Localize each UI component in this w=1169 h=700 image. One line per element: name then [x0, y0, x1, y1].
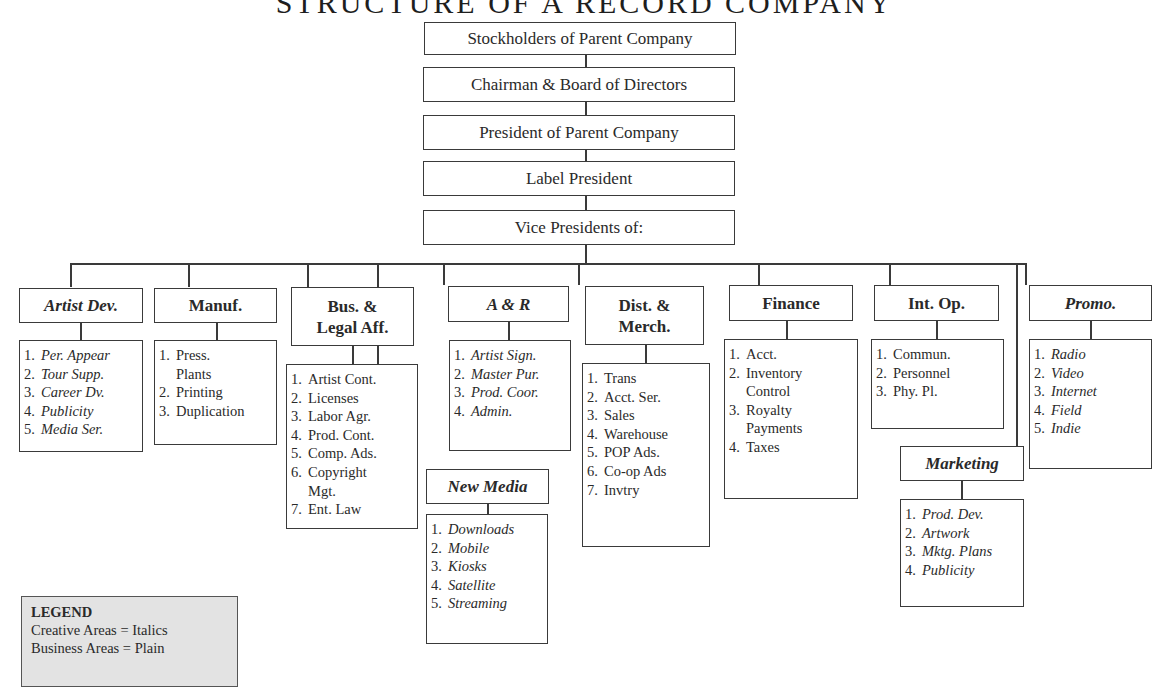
- list-item: 4. Warehouse: [587, 425, 709, 444]
- list-item: 1. Radio: [1034, 345, 1151, 364]
- dept-finance: Finance: [729, 285, 853, 321]
- connector: [80, 323, 82, 340]
- list-item: 1. Trans: [587, 369, 709, 388]
- list-item: 4. Admin.: [454, 402, 570, 421]
- list-item: 1. Press.: [159, 346, 276, 365]
- list-item: 6. Co-op Ads: [587, 462, 709, 481]
- list-item: 5. Streaming: [431, 594, 547, 613]
- list-item: 2. Master Pur.: [454, 365, 570, 384]
- dept-name: Artist Dev.: [44, 295, 118, 316]
- connector: [645, 345, 647, 363]
- connector: [508, 322, 510, 340]
- list-item: Plants: [159, 365, 276, 384]
- stockholders-label: Stockholders of Parent Company: [467, 29, 692, 49]
- dept-int-op: Int. Op.: [874, 285, 999, 321]
- connector: [585, 196, 587, 210]
- list-item: 2. Printing: [159, 383, 276, 402]
- list-item: 4. Publicity: [24, 402, 142, 421]
- dept-name: A & R: [487, 294, 530, 315]
- connector: [307, 263, 309, 287]
- list-item: 1. Acct.: [729, 345, 857, 364]
- department-bus-line: [70, 263, 1026, 265]
- list-manuf: 1. Press.Plants2. Printing3. Duplication: [154, 340, 277, 445]
- connector: [936, 321, 938, 339]
- parent-president-box: President of Parent Company: [423, 115, 735, 150]
- list-item: 7. Ent. Law: [291, 500, 417, 519]
- dept-artist-dev: Artist Dev.: [19, 288, 143, 323]
- connector: [889, 263, 891, 285]
- list-item: 2. Artwork: [905, 524, 1023, 543]
- dept-name: Finance: [762, 293, 820, 314]
- dept-name: New Media: [448, 476, 528, 497]
- vice-presidents-box: Vice Presidents of:: [423, 210, 735, 245]
- connector: [578, 263, 580, 285]
- parent-president-label: President of Parent Company: [479, 123, 679, 143]
- dept-name: Bus. &Legal Aff.: [317, 296, 389, 338]
- dept-manuf: Manuf.: [154, 288, 277, 323]
- dept-bus-legal: Bus. &Legal Aff.: [291, 287, 414, 346]
- dept-name: Manuf.: [189, 295, 242, 316]
- dept-marketing: Marketing: [900, 446, 1024, 481]
- dept-name: Marketing: [925, 453, 999, 474]
- dept-a-and-r: A & R: [448, 286, 569, 322]
- list-item: 5. POP Ads.: [587, 443, 709, 462]
- list-item: 5. Comp. Ads.: [291, 444, 417, 463]
- dept-name: Dist. &Merch.: [618, 295, 670, 337]
- marketing-trunk: [1016, 263, 1018, 454]
- list-item: Control: [729, 382, 857, 401]
- legend-line-creative: Creative Areas = Italics: [31, 621, 228, 639]
- connector: [352, 346, 354, 364]
- list-item: 3. Career Dv.: [24, 383, 142, 402]
- label-president-box: Label President: [423, 161, 735, 196]
- dept-name: Int. Op.: [908, 293, 965, 314]
- list-item: 3. Kiosks: [431, 557, 547, 576]
- list-item: 2. Inventory: [729, 364, 857, 383]
- list-item: 2. Licenses: [291, 389, 417, 408]
- list-item: 1. Artist Cont.: [291, 370, 417, 389]
- list-item: 5. Media Ser.: [24, 420, 142, 439]
- connector: [1090, 321, 1092, 339]
- connector: [585, 55, 587, 67]
- list-item: 5. Indie: [1034, 419, 1151, 438]
- connector: [443, 263, 445, 285]
- list-item: 3. Phy. Pl.: [876, 382, 1003, 401]
- list-item: 3. Prod. Coor.: [454, 383, 570, 402]
- list-item: 4. Field: [1034, 401, 1151, 420]
- list-item: 2. Video: [1034, 364, 1151, 383]
- list-item: 1. Artist Sign.: [454, 346, 570, 365]
- connector: [70, 263, 72, 287]
- connector: [216, 323, 218, 340]
- legend-title: LEGEND: [31, 603, 228, 621]
- chairman-label: Chairman & Board of Directors: [471, 75, 687, 95]
- list-marketing: 1. Prod. Dev.2. Artwork3. Mktg. Plans4. …: [900, 499, 1024, 607]
- connector: [585, 102, 587, 115]
- list-item: 1. Prod. Dev.: [905, 505, 1023, 524]
- connector: [1025, 263, 1027, 285]
- list-item: 3. Labor Agr.: [291, 407, 417, 426]
- list-new-media: 1. Downloads2. Mobile3. Kiosks4. Satelli…: [426, 514, 548, 644]
- list-item: 1. Downloads: [431, 520, 547, 539]
- list-item: 3. Sales: [587, 406, 709, 425]
- list-item: 2. Tour Supp.: [24, 365, 142, 384]
- list-item: 3. Royalty: [729, 401, 857, 420]
- list-item: 6. Copyright: [291, 463, 417, 482]
- connector: [585, 245, 587, 263]
- connector: [961, 481, 963, 499]
- list-item: Mgt.: [291, 482, 417, 501]
- legend-line-business: Business Areas = Plain: [31, 639, 228, 657]
- list-artist-dev: 1. Per. Appear2. Tour Supp.3. Career Dv.…: [19, 340, 143, 452]
- vice-presidents-label: Vice Presidents of:: [515, 218, 643, 238]
- dept-promo: Promo.: [1029, 285, 1152, 321]
- list-dist-merch: 1. Trans2. Acct. Ser.3. Sales4. Warehous…: [582, 363, 710, 547]
- list-item: 7. Invtry: [587, 481, 709, 500]
- dept-dist-merch: Dist. &Merch.: [585, 286, 704, 345]
- list-item: 4. Taxes: [729, 438, 857, 457]
- list-item: Payments: [729, 419, 857, 438]
- stockholders-box: Stockholders of Parent Company: [424, 22, 736, 55]
- dept-new-media: New Media: [426, 469, 549, 504]
- list-item: 2. Acct. Ser.: [587, 388, 709, 407]
- list-promo: 1. Radio2. Video3. Internet4. Field5. In…: [1029, 339, 1152, 469]
- list-a-and-r: 1. Artist Sign.2. Master Pur.3. Prod. Co…: [449, 340, 571, 451]
- legend-box: LEGEND Creative Areas = Italics Business…: [21, 596, 238, 687]
- list-finance: 1. Acct.2. InventoryControl3. RoyaltyPay…: [724, 339, 858, 499]
